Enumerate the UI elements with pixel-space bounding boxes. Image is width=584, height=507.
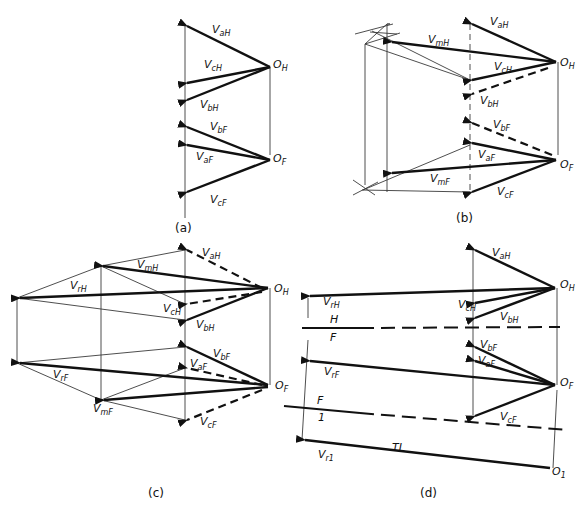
- label-o-1: O1: [552, 465, 566, 480]
- panel-c: VaH VmH VrH OH VcH VbH VbF VaF VrF OF Vm…: [17, 246, 289, 500]
- label-v-cH: VcH: [494, 60, 512, 75]
- ref-line-label-F: F: [330, 331, 337, 344]
- label-v-cH: VcH: [163, 302, 181, 317]
- label-v-r1: Vr1: [318, 448, 334, 463]
- caption-a: (a): [175, 221, 192, 235]
- label-o-H: OH: [274, 282, 289, 297]
- label-v-rF: VrF: [324, 365, 340, 380]
- panel-a: VaH VcH VbH OH VbF VaF OF VcF (a): [175, 23, 288, 235]
- label-v-mF: VmF: [430, 172, 450, 187]
- label-v-aF: VaF: [196, 150, 213, 165]
- caption-c: (c): [148, 486, 164, 500]
- ref-line-label-H: H: [330, 313, 338, 326]
- label-v-aH: VaH: [212, 23, 230, 38]
- label-tl: TL: [392, 441, 405, 454]
- label-v-cF: VcF: [497, 185, 514, 200]
- label-v-cF: VcF: [210, 193, 227, 208]
- caption-b: (b): [456, 211, 473, 225]
- label-v-cF: VcF: [200, 415, 217, 430]
- vector-diagram-figure: VaH VcH VbH OH VbF VaF OF VcF (a): [0, 0, 584, 507]
- caption-d: (d): [420, 486, 437, 500]
- label-o-H: OH: [273, 58, 288, 73]
- ref-line-label-F: F: [317, 394, 324, 407]
- label-v-aH: VaH: [492, 246, 510, 261]
- label-v-aF: VaF: [478, 148, 495, 163]
- panel-d: H F F 1 TL VaH OH VrH VcH VbH VbF VaF Vr…: [284, 246, 575, 500]
- label-v-cH: VcH: [204, 58, 222, 73]
- label-v-bF: VbF: [213, 347, 231, 362]
- label-o-F: OF: [560, 158, 574, 173]
- label-v-bF: VbF: [493, 118, 511, 133]
- label-v-aH: VaH: [490, 15, 508, 30]
- label-v-bH: VbH: [480, 94, 499, 109]
- label-v-mH: VmH: [137, 258, 158, 273]
- panel-b: VaH VmH VcH OH VbH VbF VaF OF VmF VcF (b…: [353, 15, 575, 225]
- label-v-mF: VmF: [93, 402, 113, 417]
- label-v-mH: VmH: [428, 33, 449, 48]
- label-v-cF: VcF: [500, 410, 517, 425]
- label-o-F: OF: [275, 379, 289, 394]
- label-v-bH: VbH: [196, 318, 215, 333]
- label-o-H: OH: [560, 56, 575, 71]
- label-o-F: OF: [273, 152, 287, 167]
- label-v-rH: VrH: [70, 279, 87, 294]
- label-v-aH: VaH: [202, 246, 220, 261]
- label-v-bH: VbH: [500, 310, 519, 325]
- label-v-bH: VbH: [200, 98, 219, 113]
- label-v-rH: VrH: [323, 295, 340, 310]
- label-o-H: OH: [560, 278, 575, 293]
- label-v-rF: VrF: [53, 368, 69, 383]
- label-o-F: OF: [560, 376, 574, 391]
- label-v-bF: VbF: [480, 338, 498, 353]
- label-v-aF: VaF: [190, 357, 207, 372]
- label-v-bF: VbF: [210, 120, 228, 135]
- ref-line-label-1: 1: [318, 411, 325, 424]
